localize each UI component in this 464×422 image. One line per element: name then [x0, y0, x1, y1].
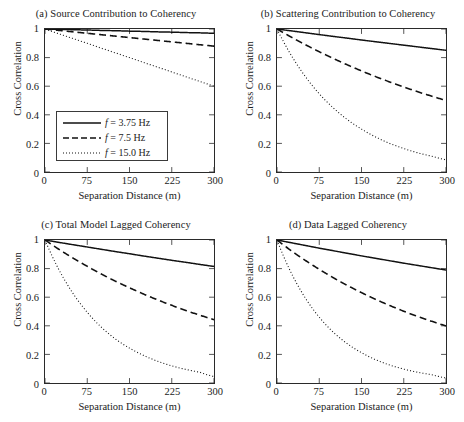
y-tick-0.8: 0.8 — [26, 52, 39, 63]
legend-item-0: f = 3.75 Hz — [57, 115, 167, 130]
x-tick-150: 150 — [122, 386, 138, 397]
y-tick-0: 0 — [34, 168, 39, 179]
panel-b-y-axis-label: Cross Correlation — [244, 19, 255, 139]
y-tick-0.2: 0.2 — [258, 139, 271, 150]
panel-b-x-axis-label: Separation Distance (m) — [276, 190, 447, 201]
y-tick-1: 1 — [34, 234, 39, 245]
x-tick-75: 75 — [314, 386, 325, 397]
x-tick-150: 150 — [122, 175, 138, 186]
y-tick-0.8: 0.8 — [258, 263, 271, 274]
x-tick-0: 0 — [41, 386, 46, 397]
legend-item-2: f = 15.0 Hz — [57, 145, 167, 160]
y-tick-0: 0 — [266, 379, 271, 390]
x-tick-300: 300 — [439, 386, 455, 397]
panel-d-plot-area — [276, 239, 447, 384]
y-tick-0.4: 0.4 — [258, 321, 271, 332]
x-tick-300: 300 — [439, 175, 455, 186]
panel-c-curves — [45, 240, 214, 383]
x-tick-300: 300 — [207, 175, 223, 186]
x-tick-75: 75 — [314, 175, 325, 186]
y-tick-0.6: 0.6 — [258, 81, 271, 92]
panel-a-x-tick-labels: 075150225300 — [44, 175, 215, 191]
panel-c-title: (c) Total Model Lagged Coherency — [0, 219, 232, 230]
y-tick-0.2: 0.2 — [26, 139, 39, 150]
y-tick-0.6: 0.6 — [26, 81, 39, 92]
y-tick-1: 1 — [34, 23, 39, 34]
y-tick-0.4: 0.4 — [258, 110, 271, 121]
y-tick-0.8: 0.8 — [26, 263, 39, 274]
panel-a-title: (a) Source Contribution to Coherency — [0, 8, 232, 19]
y-tick-0.4: 0.4 — [26, 110, 39, 121]
legend-box: f = 3.75 Hz f = 7.5 Hz f = 15.0 Hz — [56, 111, 168, 161]
legend-label-0: f = 3.75 Hz — [105, 117, 150, 128]
y-tick-0.8: 0.8 — [258, 52, 271, 63]
y-tick-0.6: 0.6 — [258, 292, 271, 303]
panel-c: (c) Total Model Lagged Coherency 00.20.4… — [0, 211, 232, 422]
y-tick-0.2: 0.2 — [258, 350, 271, 361]
panel-d-curves — [277, 240, 446, 383]
x-tick-75: 75 — [82, 175, 93, 186]
x-tick-225: 225 — [396, 386, 412, 397]
legend-item-1: f = 7.5 Hz — [57, 130, 167, 145]
x-tick-0: 0 — [41, 175, 46, 186]
panel-c-x-axis-label: Separation Distance (m) — [44, 401, 215, 412]
y-tick-0.2: 0.2 — [26, 350, 39, 361]
x-tick-225: 225 — [164, 175, 180, 186]
x-tick-150: 150 — [354, 386, 370, 397]
legend-label-1: f = 7.5 Hz — [105, 132, 145, 143]
panel-c-x-tick-labels: 075150225300 — [44, 386, 215, 402]
panel-d-x-tick-labels: 075150225300 — [276, 386, 447, 402]
panel-b: (b) Scattering Contribution to Coherency… — [232, 0, 464, 211]
figure-grid: (a) Source Contribution to Coherency 00.… — [0, 0, 464, 422]
panel-b-x-tick-labels: 075150225300 — [276, 175, 447, 191]
legend-label-2: f = 15.0 Hz — [105, 147, 150, 158]
x-tick-225: 225 — [164, 386, 180, 397]
panel-a-plot-area: f = 3.75 Hz f = 7.5 Hz f = 15.0 Hz — [44, 28, 215, 173]
x-tick-225: 225 — [396, 175, 412, 186]
panel-d-title: (d) Data Lagged Coherency — [232, 219, 464, 230]
panel-b-curves — [277, 29, 446, 172]
panel-b-plot-area — [276, 28, 447, 173]
panel-d-y-axis-label: Cross Correlation — [244, 230, 255, 350]
panel-d-x-axis-label: Separation Distance (m) — [276, 401, 447, 412]
panel-a-x-axis-label: Separation Distance (m) — [44, 190, 215, 201]
panel-a: (a) Source Contribution to Coherency 00.… — [0, 0, 232, 211]
y-tick-0: 0 — [34, 379, 39, 390]
panel-a-y-axis-label: Cross Correlation — [12, 19, 23, 139]
y-tick-0.4: 0.4 — [26, 321, 39, 332]
y-tick-1: 1 — [266, 234, 271, 245]
panel-d: (d) Data Lagged Coherency 00.20.40.60.81… — [232, 211, 464, 422]
panel-b-title: (b) Scattering Contribution to Coherency — [232, 8, 464, 19]
x-tick-150: 150 — [354, 175, 370, 186]
panel-c-y-axis-label: Cross Correlation — [12, 230, 23, 350]
x-tick-0: 0 — [273, 175, 278, 186]
legend-dotted-line-icon — [62, 148, 102, 158]
y-tick-0: 0 — [266, 168, 271, 179]
y-tick-1: 1 — [266, 23, 271, 34]
legend-solid-line-icon — [62, 118, 102, 128]
legend-dashed-line-icon — [62, 133, 102, 143]
x-tick-75: 75 — [82, 386, 93, 397]
x-tick-300: 300 — [207, 386, 223, 397]
x-tick-0: 0 — [273, 386, 278, 397]
panel-c-plot-area — [44, 239, 215, 384]
y-tick-0.6: 0.6 — [26, 292, 39, 303]
